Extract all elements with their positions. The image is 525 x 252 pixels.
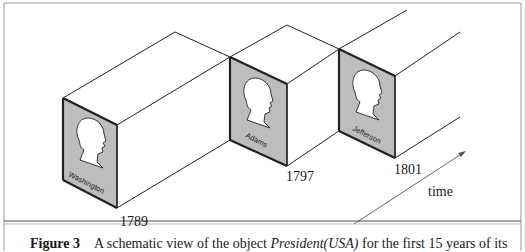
panel-jefferson: Jefferson — [339, 49, 395, 158]
caption-object-name: President(USA) — [270, 236, 358, 251]
panel-adams: Adams — [230, 57, 287, 166]
year-label-1801: 1801 — [394, 162, 422, 178]
caption-text-before: A schematic view of the object — [94, 236, 271, 251]
year-label-1789: 1789 — [120, 214, 148, 230]
figure-caption: Figure 3A schematic view of the object P… — [30, 236, 525, 252]
caption-figure-number: Figure 3 — [30, 236, 80, 251]
caption-text-after: for the first 15 years of its — [359, 236, 508, 251]
year-label-1797: 1797 — [286, 169, 314, 185]
panel-washington: Washington — [63, 98, 117, 208]
time-axis-label: time — [428, 184, 453, 200]
